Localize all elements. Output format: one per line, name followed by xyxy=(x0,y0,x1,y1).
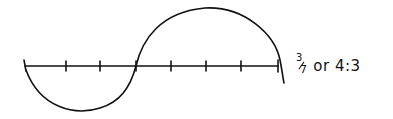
lower-arc xyxy=(26,66,136,111)
ratio-text: 4:3 xyxy=(335,57,361,75)
fraction-denominator: 7 xyxy=(300,63,308,76)
upper-arc xyxy=(136,8,284,83)
connector-text: or xyxy=(313,57,329,75)
ratio-label: 3 7 or 4:3 xyxy=(296,56,361,76)
fraction: 3 7 xyxy=(296,56,308,76)
fraction-numerator: 3 xyxy=(296,52,303,63)
